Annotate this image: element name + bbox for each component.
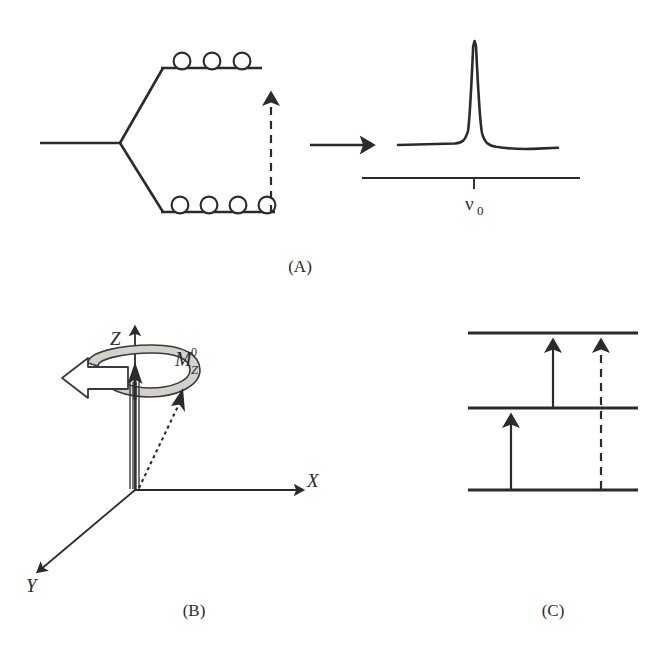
- figure-background: [0, 0, 662, 650]
- magnetization-superscript: 0: [191, 345, 197, 359]
- spin-circle: [259, 197, 276, 214]
- axis-z-label: Z: [110, 328, 121, 349]
- upper-level-spin-population: [174, 53, 251, 70]
- figure-canvas: ν 0 (A) Z X Y: [0, 0, 662, 650]
- spin-circle: [234, 53, 251, 70]
- magnetization-subscript: Z: [191, 362, 199, 377]
- spin-circle: [174, 53, 191, 70]
- panel-b-caption: (B): [183, 601, 206, 620]
- nu-symbol: ν: [465, 193, 474, 214]
- nu-subscript: 0: [477, 203, 484, 218]
- nmr-figure: ν 0 (A) Z X Y: [0, 0, 662, 650]
- spin-circle: [204, 53, 221, 70]
- panel-c-caption: (C): [542, 601, 565, 620]
- axis-x-label: X: [306, 470, 320, 491]
- panel-a-caption: (A): [288, 257, 312, 276]
- spin-circle: [172, 197, 189, 214]
- spin-circle: [201, 197, 218, 214]
- spin-circle: [230, 197, 247, 214]
